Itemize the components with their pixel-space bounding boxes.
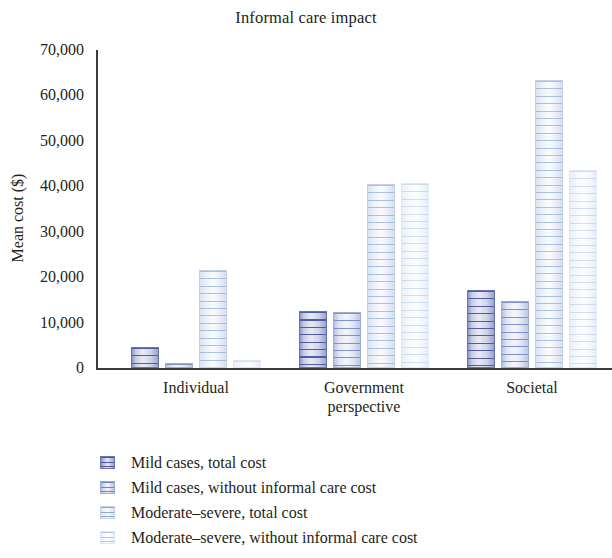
legend-item[interactable]: Moderate–severe, without informal care c… <box>100 525 610 550</box>
legend-item-label: Mild cases, total cost <box>131 454 266 472</box>
chart-legend: Mild cases, total costMild cases, withou… <box>100 450 610 550</box>
y-axis-tick-label: 0 <box>76 359 84 377</box>
legend-item[interactable]: Mild cases, without informal care cost <box>100 475 610 500</box>
legend-item[interactable]: Moderate–severe, total cost <box>100 500 610 525</box>
legend-swatch-icon <box>100 531 115 544</box>
y-axis-tick-label: 60,000 <box>40 86 84 104</box>
x-axis-category-label-line: Government <box>278 378 450 397</box>
bar-fill <box>165 363 193 368</box>
bar-fill <box>569 170 597 368</box>
bar <box>535 80 563 368</box>
x-axis-category-label: Governmentperspective <box>278 378 450 416</box>
x-axis-category-label: Societal <box>446 378 612 397</box>
bar <box>131 347 159 368</box>
bar-fill <box>467 290 495 368</box>
y-axis-tick-label: 20,000 <box>40 268 84 286</box>
y-axis-tick-label: 10,000 <box>40 314 84 332</box>
legend-item-label: Moderate–severe, total cost <box>131 504 307 522</box>
bar-fill <box>333 312 361 368</box>
x-axis-category-label-line: Individual <box>110 378 282 397</box>
x-axis-category-label-line: perspective <box>278 397 450 416</box>
bar-fill <box>535 80 563 368</box>
bar-fill <box>367 184 395 368</box>
bar-fill <box>501 301 529 368</box>
bar <box>233 360 261 368</box>
bar <box>333 312 361 368</box>
x-axis-category-label-line: Societal <box>446 378 612 397</box>
x-axis-category-label: Individual <box>110 378 282 397</box>
bar <box>467 290 495 368</box>
bar-fill <box>299 311 327 368</box>
bar <box>199 270 227 368</box>
chart-figure: Informal care impact 010,00020,00030,000… <box>0 0 612 558</box>
bar <box>569 170 597 368</box>
y-axis-tick-label: 50,000 <box>40 132 84 150</box>
bar-fill <box>199 270 227 368</box>
bar-fill <box>401 183 429 368</box>
bar-group <box>131 50 261 368</box>
bar-group <box>467 50 597 368</box>
legend-item[interactable]: Mild cases, total cost <box>100 450 610 475</box>
bar-group <box>299 50 429 368</box>
plot-area <box>96 50 612 368</box>
bar <box>165 363 193 368</box>
legend-swatch-icon <box>100 481 115 494</box>
bar <box>501 301 529 368</box>
bar <box>299 311 327 368</box>
bar-fill <box>233 360 261 368</box>
legend-item-label: Mild cases, without informal care cost <box>131 479 376 497</box>
bar <box>367 184 395 368</box>
bar <box>401 183 429 368</box>
legend-swatch-icon <box>100 456 115 469</box>
y-axis-title: Mean cost ($) <box>9 138 27 298</box>
y-axis-tick-label: 40,000 <box>40 177 84 195</box>
legend-item-label: Moderate–severe, without informal care c… <box>131 529 418 547</box>
bar-fill <box>131 347 159 368</box>
x-axis-line <box>96 368 612 370</box>
y-axis-tick-label: 30,000 <box>40 223 84 241</box>
y-axis-tick-label: 70,000 <box>40 41 84 59</box>
legend-swatch-icon <box>100 506 115 519</box>
